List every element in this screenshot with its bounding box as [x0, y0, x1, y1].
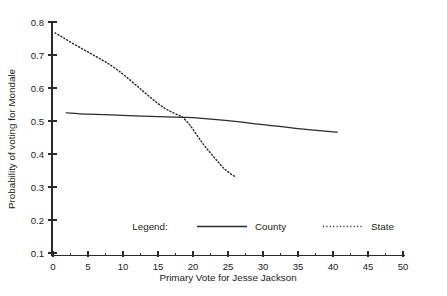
x-tick-label: 45: [363, 261, 374, 272]
chart-container: 0.10.20.30.40.50.60.70.8 051015202530354…: [0, 0, 447, 296]
x-tick-label: 5: [85, 261, 90, 272]
x-tick-label: 20: [188, 261, 199, 272]
x-tick-label: 25: [223, 261, 234, 272]
chart-legend: Legend:CountyState: [132, 221, 394, 232]
y-axis: 0.10.20.30.40.50.60.70.8: [31, 17, 57, 259]
y-tick-label: 0.5: [31, 116, 44, 127]
legend-label-state: State: [371, 221, 394, 232]
x-tick-label: 35: [293, 261, 304, 272]
y-tick-label: 0.6: [31, 83, 44, 94]
x-axis-title: Primary Vote for Jesse Jackson: [159, 272, 296, 283]
y-tick-label: 0.4: [31, 149, 45, 160]
x-axis: 05101520253035404550: [50, 251, 408, 272]
series-line-state: [55, 33, 235, 177]
legend-label-county: County: [255, 221, 286, 232]
x-tick-label: 15: [153, 261, 164, 272]
series-layer: [55, 33, 337, 177]
y-tick-label: 0.7: [31, 50, 44, 61]
x-tick-label: 0: [50, 261, 55, 272]
y-tick-label: 0.1: [31, 248, 44, 259]
x-tick-label: 10: [118, 261, 129, 272]
line-chart: 0.10.20.30.40.50.60.70.8 051015202530354…: [0, 0, 447, 296]
series-line-county: [66, 113, 337, 132]
y-tick-label: 0.3: [31, 182, 44, 193]
y-tick-label: 0.2: [31, 215, 44, 226]
legend-title: Legend:: [132, 221, 167, 232]
x-tick-label: 30: [258, 261, 269, 272]
y-axis-title: Probability of voting for Mondale: [6, 68, 17, 209]
x-tick-label: 50: [398, 261, 409, 272]
y-tick-label: 0.8: [31, 17, 44, 28]
x-tick-label: 40: [328, 261, 339, 272]
